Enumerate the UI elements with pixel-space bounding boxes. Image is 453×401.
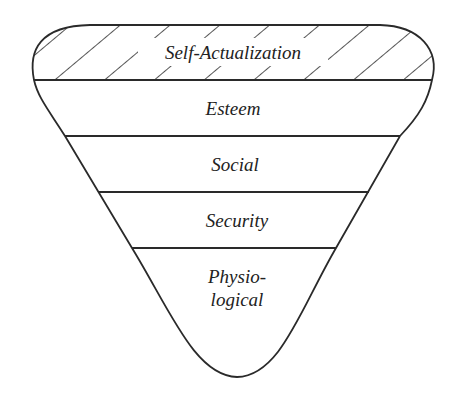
label-social: Social — [211, 154, 259, 175]
label-physiological-line2: logical — [211, 289, 264, 310]
label-self-actualization: Self-Actualization — [165, 42, 301, 63]
inverted-pyramid-diagram: Self-Actualization Esteem Social Securit… — [0, 0, 453, 401]
label-physiological-line1: Physio- — [207, 266, 266, 287]
label-esteem: Esteem — [205, 98, 261, 119]
label-security: Security — [206, 210, 269, 231]
